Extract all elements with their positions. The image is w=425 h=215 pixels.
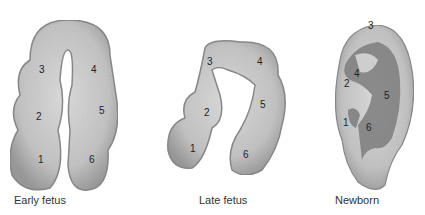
late-fetus-hillock-5: 5	[260, 99, 266, 110]
early-fetus-hillock-3: 3	[39, 64, 45, 75]
late-fetus-hillock-3: 3	[207, 56, 213, 67]
newborn-hillock-4: 4	[354, 68, 360, 79]
late-fetus-hillock-6: 6	[243, 149, 249, 160]
newborn-hillock-5: 5	[384, 90, 390, 101]
early-fetus-hillock-4: 4	[91, 64, 97, 75]
late-fetus-caption: Late fetus	[199, 194, 247, 206]
early-fetus-hillock-1: 1	[38, 154, 44, 165]
late-fetus-hillock-1: 1	[190, 143, 196, 154]
early-fetus-hillock-2: 2	[36, 111, 42, 122]
newborn-hillock-1: 1	[343, 117, 349, 128]
newborn-hillock-6: 6	[366, 122, 372, 133]
early-fetus-hillock-6: 6	[89, 154, 95, 165]
ear-development-diagram: 3 4 2 5 1 6 Early fetus 3 4 2 5 1 6 Late…	[0, 0, 425, 215]
newborn-hillock-2: 2	[344, 78, 350, 89]
newborn-ear-shape	[335, 25, 413, 189]
late-fetus-hillock-4: 4	[257, 56, 263, 67]
late-fetus-hillock-2: 2	[204, 107, 210, 118]
late-fetus-shape	[168, 41, 285, 175]
newborn-hillock-3: 3	[368, 20, 374, 31]
newborn-caption: Newborn	[335, 194, 379, 206]
early-fetus-caption: Early fetus	[14, 194, 66, 206]
diagram-illustration	[0, 0, 425, 215]
early-fetus-hillock-5: 5	[99, 105, 105, 116]
